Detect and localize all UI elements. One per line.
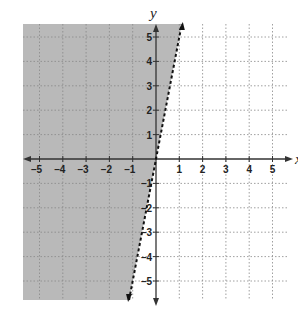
y-tick-label: –3 <box>141 227 153 238</box>
x-tick-label: –5 <box>31 164 43 175</box>
x-tick-label: –4 <box>54 164 66 175</box>
y-tick-label: 5 <box>146 32 152 43</box>
y-tick-label: –2 <box>141 203 153 214</box>
y-tick-label: 4 <box>146 56 152 67</box>
x-tick-label: 1 <box>177 164 183 175</box>
x-tick-label: –3 <box>78 164 90 175</box>
y-axis-label: y <box>148 5 157 21</box>
y-tick-label: –1 <box>141 178 153 189</box>
x-tick-label: 2 <box>200 164 206 175</box>
x-tick-label: –1 <box>124 164 136 175</box>
inequality-graph: –5–4–3–2–11234554321–1–2–3–4–5xy <box>0 0 298 314</box>
shaded-region <box>23 24 182 300</box>
x-tick-label: 5 <box>270 164 276 175</box>
x-tick-label: –2 <box>101 164 113 175</box>
y-axis-down-arrow-icon <box>153 298 159 306</box>
x-axis-label: x <box>294 151 298 167</box>
x-tick-label: 3 <box>223 164 229 175</box>
x-axis-right-arrow-icon <box>285 156 293 162</box>
y-tick-label: 3 <box>146 81 152 92</box>
y-tick-label: 1 <box>146 130 152 141</box>
shaded-area <box>23 24 182 300</box>
y-tick-label: –4 <box>141 252 153 263</box>
y-tick-label: –5 <box>141 276 153 287</box>
y-tick-label: 2 <box>146 105 152 116</box>
x-tick-label: 4 <box>246 164 252 175</box>
